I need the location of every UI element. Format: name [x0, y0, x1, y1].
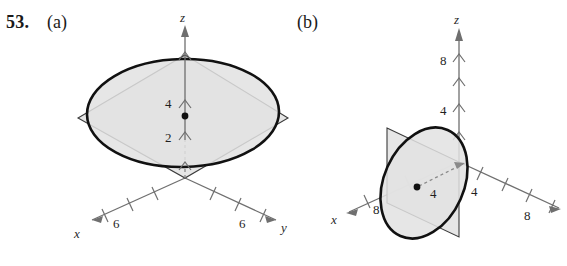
figure-b-y-axis: 4 8 y: [459, 162, 561, 223]
figure-a-y-axis: 6 y: [185, 178, 287, 235]
x-axis-tick-label: 6: [113, 216, 120, 231]
figure-a-graphic: 6 x 6 y 4 2: [0, 0, 300, 266]
figure-a-ellipse: [86, 57, 280, 168]
exercise-figure-container: 53. (a) (b) 6 x 6 y: [0, 0, 567, 266]
y-axis-tick: [477, 167, 483, 180]
y-axis-line: [185, 178, 276, 220]
z-axis-letter: z: [453, 12, 459, 27]
figure-b-ellipse: [364, 114, 484, 253]
y-axis-tick: [235, 198, 241, 211]
y-axis-tick-label-4: 4: [471, 184, 478, 199]
figure-b-center-dot: [414, 184, 421, 191]
figure-b-graphic: 4 8 y 4 8 z 8 x: [287, 0, 567, 266]
x-axis-tick-label: 8: [373, 202, 380, 217]
figure-a-x-axis: 6 x: [73, 178, 185, 241]
z-axis-arrowhead: [181, 25, 189, 37]
x-axis-tick: [364, 195, 370, 208]
y-axis-tick-label-8: 8: [524, 208, 531, 223]
y-axis-tick: [210, 187, 216, 200]
x-axis-tick: [152, 187, 158, 200]
z-axis-upper-label: 4: [165, 96, 172, 111]
z-axis-arrowhead: [455, 28, 463, 41]
x-axis-letter: x: [330, 212, 337, 227]
z-axis-tick-label-4: 4: [440, 103, 447, 118]
figure-b-radius-label: 4: [430, 186, 437, 201]
y-axis-tick-label: 6: [239, 216, 246, 231]
x-axis-line: [92, 178, 185, 220]
z-axis-letter: z: [179, 10, 185, 25]
figure-a-center-dot: [182, 113, 189, 120]
z-axis-lower-label: 2: [165, 130, 172, 145]
y-axis-letter: y: [279, 220, 287, 235]
x-axis-letter: x: [73, 226, 80, 241]
z-axis-tick-label-8: 8: [440, 53, 447, 68]
